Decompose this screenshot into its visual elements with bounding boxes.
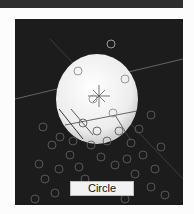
scene-canvas[interactable] (15, 19, 183, 205)
top-toolbar (0, 0, 183, 8)
image-viewer-panel[interactable]: Circle (15, 19, 183, 205)
object-label: Circle (70, 181, 134, 196)
